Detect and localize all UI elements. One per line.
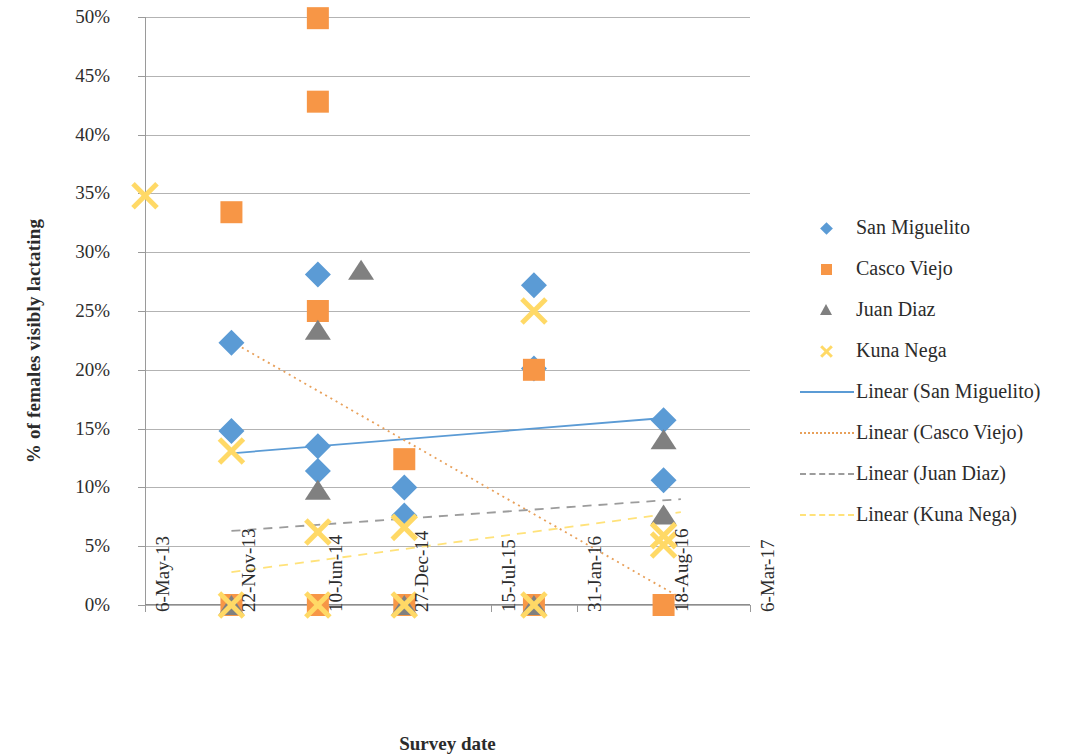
- x-tick-mark: [145, 605, 146, 612]
- y-tick-label: 0%: [30, 595, 110, 614]
- legend-line-icon: [800, 473, 854, 475]
- legend-line-key: [800, 459, 856, 489]
- legend-item-label: Kuna Nega: [856, 339, 947, 362]
- data-point-marker: [348, 260, 374, 280]
- data-point-marker: [133, 184, 157, 208]
- legend-item[interactable]: Juan Diaz: [800, 289, 1076, 330]
- y-tick-mark: [138, 546, 145, 547]
- y-tick-mark: [138, 17, 145, 18]
- triangle-marker-icon: [820, 304, 832, 315]
- x-tick-mark: [491, 605, 492, 612]
- y-axis-tick-labels: 0%5%10%15%20%25%30%35%40%45%50%: [28, 0, 110, 756]
- legend-item[interactable]: Kuna Nega: [800, 330, 1076, 371]
- data-point-marker: [305, 262, 331, 288]
- y-tick-label: 15%: [30, 419, 110, 438]
- x-tick-label: 18-Aug-16: [671, 482, 693, 612]
- legend-item[interactable]: Linear (Kuna Nega): [800, 494, 1076, 535]
- trendline: [231, 499, 680, 531]
- y-tick-mark: [138, 487, 145, 488]
- x-tick-label: 22-Nov-13: [238, 482, 260, 612]
- y-tick-mark: [138, 429, 145, 430]
- x-tick-label: 6-Mar-17: [757, 482, 779, 612]
- legend-line-key: [800, 377, 856, 407]
- y-tick-label: 25%: [30, 301, 110, 320]
- y-tick-mark: [138, 370, 145, 371]
- legend-line-icon: [800, 432, 854, 434]
- x-tick-label: 10-Jun-14: [325, 482, 347, 612]
- data-point-marker: [393, 448, 415, 470]
- legend-marker-key: [800, 295, 856, 325]
- data-point-marker: [220, 201, 242, 223]
- data-point-marker: [523, 359, 545, 381]
- y-tick-label: 5%: [30, 536, 110, 555]
- legend-item[interactable]: San Miguelito: [800, 207, 1076, 248]
- y-tick-mark: [138, 135, 145, 136]
- legend-item-label: San Miguelito: [856, 216, 970, 239]
- data-point-marker: [521, 272, 547, 298]
- legend-line-key: [800, 418, 856, 448]
- data-point-marker: [651, 429, 677, 449]
- x-tick-label: 6-May-13: [152, 482, 174, 612]
- legend-item-label: Linear (San Miguelito): [856, 380, 1040, 403]
- x-tick-label: 15-Jul-15: [498, 482, 520, 612]
- plot-area: [145, 17, 750, 605]
- legend-marker-key: [800, 213, 856, 243]
- legend-line-icon: [800, 514, 854, 516]
- y-tick-label: 50%: [30, 7, 110, 26]
- y-tick-label: 35%: [30, 183, 110, 202]
- data-point-marker: [305, 433, 331, 459]
- y-tick-label: 10%: [30, 477, 110, 496]
- x-axis-tick-labels: 6-May-1322-Nov-1310-Jun-1427-Dec-1415-Ju…: [145, 612, 750, 752]
- square-marker-icon: [821, 264, 832, 275]
- trendline: [231, 342, 680, 598]
- diamond-marker-icon: [820, 222, 833, 235]
- legend-item-label: Casco Viejo: [856, 257, 953, 280]
- y-tick-mark: [138, 76, 145, 77]
- legend-item[interactable]: Linear (Casco Viejo): [800, 412, 1076, 453]
- data-point-marker: [307, 91, 329, 113]
- x-tick-label: 31-Jan-16: [584, 482, 606, 612]
- legend-line-key: [800, 500, 856, 530]
- cross-marker-icon: [819, 344, 834, 359]
- data-point-marker: [522, 299, 546, 323]
- trendline: [231, 418, 663, 453]
- data-series-layer: [145, 17, 750, 605]
- legend-item[interactable]: Casco Viejo: [800, 248, 1076, 289]
- x-tick-mark: [750, 605, 751, 612]
- legend-item-label: Linear (Casco Viejo): [856, 421, 1023, 444]
- y-tick-mark: [138, 605, 145, 606]
- data-point-marker: [307, 7, 329, 29]
- legend-item-label: Juan Diaz: [856, 298, 935, 321]
- scatter-chart: % of females visibly lactating 0%5%10%15…: [0, 0, 1082, 756]
- y-tick-label: 30%: [30, 242, 110, 261]
- legend-item-label: Linear (Kuna Nega): [856, 503, 1017, 526]
- y-tick-label: 20%: [30, 360, 110, 379]
- chart-legend: San MiguelitoCasco ViejoJuan Diaz Kuna N…: [800, 207, 1076, 535]
- legend-item[interactable]: Linear (San Miguelito): [800, 371, 1076, 412]
- legend-item-label: Linear (Juan Diaz): [856, 462, 1006, 485]
- x-tick-mark: [577, 605, 578, 612]
- legend-item[interactable]: Linear (Juan Diaz): [800, 453, 1076, 494]
- legend-marker-key: [800, 336, 856, 366]
- y-tick-mark: [138, 252, 145, 253]
- data-point-marker: [218, 330, 244, 356]
- data-point-marker: [305, 320, 331, 340]
- legend-marker-key: [800, 254, 856, 284]
- x-axis-title: Survey date: [145, 733, 750, 755]
- y-tick-label: 40%: [30, 125, 110, 144]
- trendline: [231, 512, 680, 572]
- y-tick-mark: [138, 311, 145, 312]
- x-tick-label: 27-Dec-14: [411, 482, 433, 612]
- y-tick-label: 45%: [30, 66, 110, 85]
- data-point-marker: [307, 300, 329, 322]
- trendlines-group: [231, 342, 680, 598]
- legend-line-icon: [800, 391, 854, 393]
